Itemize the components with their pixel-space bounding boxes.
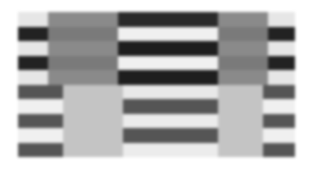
grating-segment xyxy=(218,41,268,56)
grating-segment xyxy=(218,27,268,42)
grating-segment xyxy=(118,12,218,27)
grating-segment xyxy=(218,128,263,143)
grating-segment xyxy=(123,114,218,129)
grating-band xyxy=(18,41,295,56)
grating-segment xyxy=(18,12,48,27)
grating-band xyxy=(18,70,295,85)
grating-band xyxy=(18,99,295,114)
grating-segment xyxy=(118,70,218,85)
grating-segment xyxy=(18,27,48,42)
grating-band xyxy=(18,56,295,71)
grating-segment xyxy=(48,41,118,56)
grating-segment xyxy=(263,143,295,158)
grating-segment xyxy=(48,70,118,85)
grating-segment xyxy=(18,85,63,100)
grating-segment xyxy=(268,27,295,42)
grating-segment xyxy=(263,114,295,129)
grating-band xyxy=(18,128,295,143)
grating-segment xyxy=(218,114,263,129)
grating-segment xyxy=(18,99,63,114)
grating-segment xyxy=(18,56,48,71)
grating-segment xyxy=(218,99,263,114)
grating-segment xyxy=(268,41,295,56)
grating-segment xyxy=(218,85,263,100)
grating-segment xyxy=(123,99,218,114)
grating-segment xyxy=(218,143,263,158)
grating-segment xyxy=(268,70,295,85)
grating-segment xyxy=(268,12,295,27)
grating-segment xyxy=(263,99,295,114)
grating-segment xyxy=(48,56,118,71)
grating-segment xyxy=(123,128,218,143)
grating-illusion-figure xyxy=(18,12,295,157)
grating-segment xyxy=(218,12,268,27)
grating-segment xyxy=(18,128,63,143)
grating-band xyxy=(18,85,295,100)
grating-band xyxy=(18,27,295,42)
grating-segment xyxy=(123,85,218,100)
grating-segment xyxy=(18,143,63,158)
grating-segment xyxy=(48,27,118,42)
grating-segment xyxy=(63,99,123,114)
grating-segment xyxy=(18,70,48,85)
grating-segment xyxy=(263,128,295,143)
grating-segment xyxy=(63,114,123,129)
grating-segment xyxy=(118,27,218,42)
grating-segment xyxy=(18,41,48,56)
grating-segment xyxy=(18,114,63,129)
grating-segment xyxy=(118,41,218,56)
grating-segment xyxy=(63,128,123,143)
grating-segment xyxy=(48,12,118,27)
grating-segment xyxy=(63,143,123,158)
grating-segment xyxy=(118,56,218,71)
grating-segment xyxy=(63,85,123,100)
grating-band xyxy=(18,114,295,129)
grating-segment xyxy=(218,56,268,71)
grating-band xyxy=(18,12,295,27)
grating-segment xyxy=(263,85,295,100)
grating-segment xyxy=(268,56,295,71)
grating-band xyxy=(18,143,295,158)
grating-segment xyxy=(218,70,268,85)
grating-segment xyxy=(123,143,218,158)
